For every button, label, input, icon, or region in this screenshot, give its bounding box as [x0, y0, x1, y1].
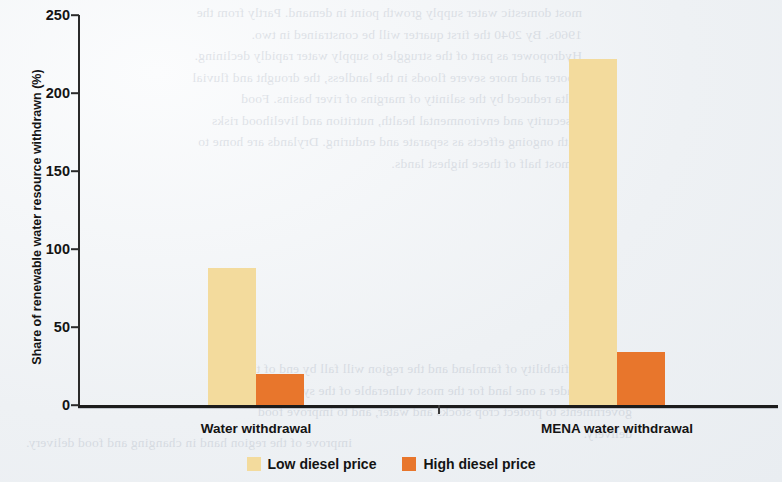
bar-high-diesel-price: [256, 374, 304, 405]
bar-low-diesel-price: [208, 268, 256, 405]
legend-color-swatch-icon: [402, 457, 416, 471]
y-axis-tick-label: 250: [14, 7, 70, 23]
legend-item: Low diesel price: [247, 456, 377, 472]
bar-low-diesel-price: [569, 59, 617, 405]
legend-item: High diesel price: [402, 456, 535, 472]
x-axis-category-label: Water withdrawal: [201, 421, 312, 436]
y-axis-tick-mark: [71, 326, 79, 328]
legend-color-swatch-icon: [247, 457, 261, 471]
page-background: most domestic water supply growth point …: [0, 0, 782, 482]
y-axis-tick-label: 150: [14, 163, 70, 179]
bar-chart: Share of renewable water resource withdr…: [0, 0, 782, 482]
y-axis-tick-label: 100: [14, 241, 70, 257]
x-axis-category-label: MENA water withdrawal: [541, 421, 693, 436]
y-axis-label: Share of renewable water resource withdr…: [30, 17, 44, 417]
y-axis-tick-mark: [71, 248, 79, 250]
legend-item-label: High diesel price: [423, 456, 535, 472]
legend-item-label: Low diesel price: [268, 456, 377, 472]
y-axis-line: [78, 15, 80, 406]
y-axis-tick-mark: [71, 404, 79, 406]
chart-legend: Low diesel priceHigh diesel price: [0, 456, 782, 472]
x-axis-line-shadow: [78, 408, 778, 409]
y-axis-tick-label: 50: [14, 319, 70, 335]
y-axis-tick-mark: [71, 14, 79, 16]
x-axis-group-separator-tick: [438, 405, 440, 414]
y-axis-tick-mark: [71, 170, 79, 172]
bar-high-diesel-price: [617, 352, 665, 405]
y-axis-tick-label: 200: [14, 85, 70, 101]
y-axis-tick-label: 0: [14, 397, 70, 413]
y-axis-tick-mark: [71, 92, 79, 94]
